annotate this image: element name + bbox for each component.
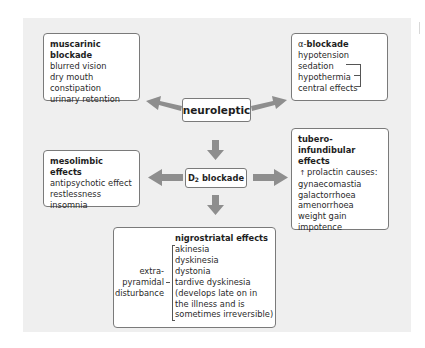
- alpha-item: hypotension: [298, 50, 381, 61]
- eps-side-label: extra- pyramidal disturbance: [114, 266, 164, 299]
- muscarinic-item: blurred vision: [50, 61, 133, 72]
- mesolimbic-effects-box: mesolimbic effects antipsychotic effect …: [43, 150, 140, 207]
- arrow-to-nigrostriatal: [207, 195, 224, 215]
- nigrostriatal-item: dystonia: [175, 266, 273, 277]
- arrow-to-muscarinic: [146, 96, 182, 111]
- alpha-blockade-box: α-blockade hypotension sedation hypother…: [291, 33, 388, 101]
- muscarinic-item: constipation: [50, 83, 133, 94]
- nigrostriatal-item: dyskinesia: [175, 255, 273, 266]
- alpha-title: α-blockade: [298, 39, 381, 50]
- alpha-title-text: blockade: [306, 39, 348, 49]
- arrow-to-mesolimbic: [148, 169, 183, 186]
- mesolimbic-item: insomnia: [50, 200, 133, 211]
- alpha-bracket-vertical: [360, 64, 361, 87]
- tubero-title-line1: tubero-infundibular: [298, 134, 382, 156]
- tubero-item: gynaecomastia: [298, 179, 382, 190]
- nigrostriatal-title: nigrostriatal effects: [175, 233, 268, 244]
- tubero-lead: ↑prolactin causes:: [298, 167, 382, 179]
- muscarinic-item: urinary retention: [50, 94, 133, 105]
- tubero-item: impotence: [298, 222, 382, 233]
- tubero-item: amenorrhoea: [298, 200, 382, 211]
- d2-label: D2 blockade: [188, 173, 244, 183]
- nigrostriatal-item: tardive dyskinesia: [175, 277, 273, 288]
- neuroleptic-box: neuroleptic: [182, 98, 251, 122]
- arrow-to-tubero: [253, 169, 288, 186]
- nigrostriatal-item: the illness and is: [175, 299, 273, 310]
- nigrostriatal-item: akinesia: [175, 244, 273, 255]
- tubero-item: galactorrhoea: [298, 190, 382, 201]
- tubero-title-line2: effects: [298, 156, 382, 167]
- alpha-bracket-top: [346, 64, 360, 65]
- increase-arrow-icon: ↑: [298, 168, 307, 179]
- muscarinic-item: dry mouth: [50, 72, 133, 83]
- alpha-item: sedation: [298, 61, 381, 72]
- muscarinic-blockade-box: muscarinic blockade blurred vision dry m…: [43, 33, 140, 101]
- d2-blockade-box: D2 blockade: [185, 168, 247, 188]
- tubero-item: weight gain: [298, 211, 382, 222]
- alpha-item: hypothermia: [298, 72, 381, 83]
- arrow-to-alpha: [251, 96, 287, 111]
- tubero-lead-text: prolactin causes:: [307, 167, 377, 177]
- arrow-to-d2: [207, 140, 224, 160]
- nigrostriatal-item: sometimes irreversible): [175, 309, 273, 320]
- mesolimbic-item: antipsychotic effect: [50, 178, 133, 189]
- nigrostriatal-effects-box: nigrostriatal effects extra- pyramidal d…: [113, 227, 276, 328]
- eps-bracket-vertical: [172, 245, 173, 321]
- neuroleptic-label: neuroleptic: [183, 104, 251, 116]
- muscarinic-title: muscarinic blockade: [50, 39, 133, 61]
- nigrostriatal-item: (develops late on in: [175, 288, 273, 299]
- eps-bracket-tick: [166, 282, 170, 283]
- mesolimbic-title: mesolimbic effects: [50, 156, 133, 178]
- mesolimbic-item: restlessness: [50, 189, 133, 200]
- alpha-item: central effects: [298, 83, 381, 94]
- nigrostriatal-items: akinesia dyskinesia dystonia tardive dys…: [175, 244, 273, 320]
- tubero-infundibular-box: tubero-infundibular effects ↑prolactin c…: [291, 128, 389, 230]
